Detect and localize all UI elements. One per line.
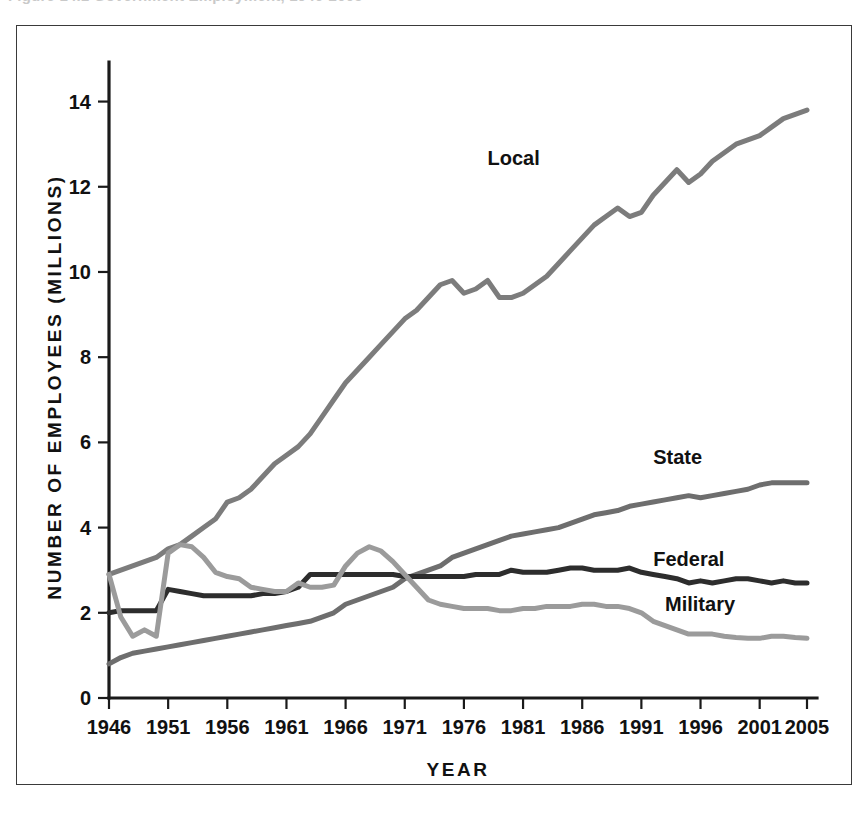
- x-tick-label: 1996: [678, 716, 723, 738]
- x-tick-label: 1976: [442, 716, 487, 738]
- x-tick-label: 1986: [560, 716, 605, 738]
- x-axis-ticks: 1946195119561961196619711976198119861991…: [87, 698, 830, 738]
- x-tick-label: 1966: [323, 716, 368, 738]
- y-tick-label: 4: [80, 517, 92, 539]
- x-tick-label: 1981: [501, 716, 546, 738]
- x-tick-label: 1961: [264, 716, 309, 738]
- x-tick-label: 2005: [785, 716, 830, 738]
- x-axis-title: YEAR: [426, 759, 489, 780]
- x-tick-label: 1971: [383, 716, 428, 738]
- y-axis-title: NUMBER OF EMPLOYEES (MILLIONS): [44, 174, 65, 599]
- clipped-header-label: Figure 14.1 Government Employment, 1946-…: [8, 0, 363, 4]
- series-line-local: [109, 110, 807, 574]
- y-tick-label: 8: [80, 346, 91, 368]
- clipped-header-text: Figure 14.1 Government Employment, 1946-…: [0, 0, 868, 10]
- series-lines: [109, 110, 807, 664]
- y-tick-label: 10: [69, 261, 91, 283]
- y-tick-label: 14: [69, 91, 92, 113]
- series-label-military: Military: [665, 593, 736, 615]
- series-label-federal: Federal: [653, 548, 724, 570]
- series-label-local: Local: [488, 147, 540, 169]
- figure-frame: 02468101214 1946195119561961196619711976…: [16, 25, 852, 785]
- y-tick-label: 2: [80, 602, 91, 624]
- x-tick-label: 1991: [619, 716, 664, 738]
- series-label-state: State: [653, 446, 702, 468]
- x-tick-label: 2001: [737, 716, 782, 738]
- y-tick-label: 0: [80, 687, 91, 709]
- x-tick-label: 1946: [87, 716, 132, 738]
- x-tick-label: 1951: [146, 716, 191, 738]
- chart-plot-area: 02468101214 1946195119561961196619711976…: [17, 26, 853, 786]
- line-chart: 02468101214 1946195119561961196619711976…: [17, 26, 853, 786]
- y-tick-label: 6: [80, 431, 91, 453]
- y-tick-label: 12: [69, 176, 91, 198]
- y-axis-ticks: 02468101214: [69, 91, 109, 709]
- x-tick-label: 1956: [205, 716, 250, 738]
- series-inline-labels: LocalStateFederalMilitary: [488, 147, 736, 614]
